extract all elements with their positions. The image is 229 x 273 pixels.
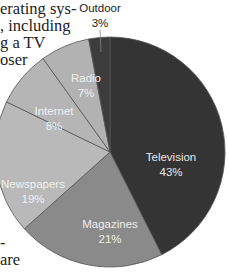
slice-label-outdoor: Outdoor3% (79, 2, 121, 29)
pie-chart: Television43%Magazines21%Newspapers19%In… (0, 0, 229, 273)
